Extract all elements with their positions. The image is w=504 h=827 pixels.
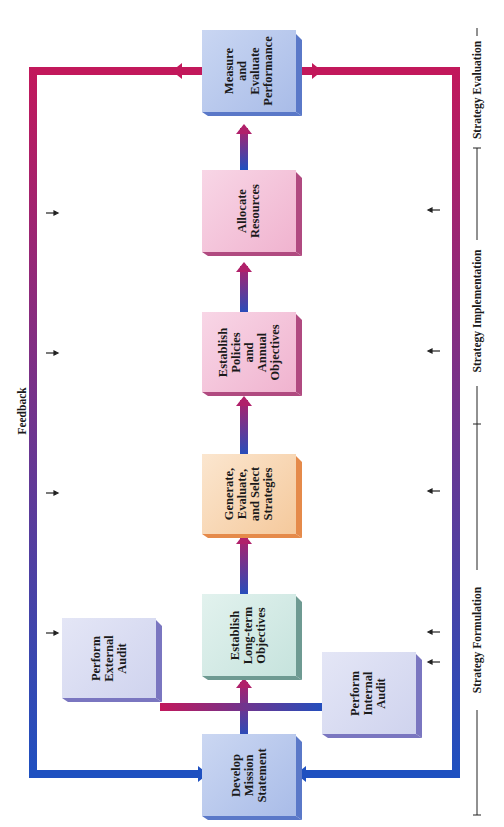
tick-arrow-left-4 — [46, 631, 58, 635]
phase-label-evaluation: Strategy Evaluation — [471, 40, 483, 140]
box-internal-audit: Perform Internal Audit — [322, 652, 416, 734]
box-label: Allocate Resources — [236, 184, 262, 238]
arrow-from-measure-left — [172, 63, 182, 79]
phase-label-formulation: Strategy Formulation — [471, 580, 483, 700]
tick-arrow-right-2 — [428, 349, 440, 353]
box-label: Perform Internal Audit — [349, 670, 388, 715]
box-label: Perform External Audit — [90, 635, 129, 682]
feedback-label: Feedback — [16, 381, 28, 441]
tick-arrow-left-2 — [46, 351, 58, 355]
tick-arrow-left-3 — [46, 491, 58, 495]
box-label: Develop Mission Statement — [230, 748, 269, 802]
box-develop-mission-statement: Develop Mission Statement — [202, 734, 296, 816]
diagram-canvas — [0, 0, 504, 827]
phase-label-implementation: Strategy Implementation — [471, 241, 483, 381]
box-measure-evaluate-performance: Measure and Evaluate Performance — [202, 30, 296, 112]
arrow-from-measure-right — [312, 63, 322, 79]
box-label: Establish Long-term Objectives — [230, 606, 269, 664]
box-label: Generate, Evaluate, and Select Strategie… — [223, 467, 275, 522]
box-establish-policies: Establish Policies and Annual Objectives — [202, 312, 296, 392]
tick-arrow-right-1 — [428, 208, 440, 212]
box-external-audit: Perform External Audit — [62, 618, 156, 698]
box-long-term-objectives: Establish Long-term Objectives — [202, 594, 296, 676]
tick-arrow-right-5 — [428, 660, 440, 664]
box-generate-strategies: Generate, Evaluate, and Select Strategie… — [202, 454, 296, 534]
box-allocate-resources: Allocate Resources — [202, 170, 296, 252]
box-label: Establish Policies and Annual Objectives — [216, 324, 281, 380]
tick-arrow-right-3 — [428, 489, 440, 493]
tick-arrow-right-4 — [428, 630, 440, 634]
tick-arrow-left-1 — [46, 211, 58, 215]
box-label: Measure and Evaluate Performance — [223, 36, 275, 105]
